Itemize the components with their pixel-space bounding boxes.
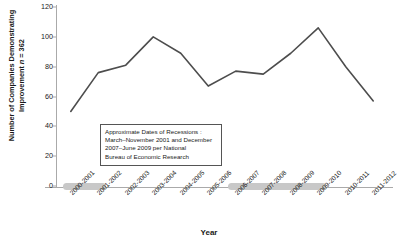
- y-axis-title-suffix: = 362: [17, 39, 26, 59]
- y-axis-tick-mark-100: [53, 36, 57, 37]
- annotation-line-1: Approximate Dates of Recessions :: [105, 128, 217, 136]
- annotation-line-2: March–November 2001 and December: [105, 136, 217, 144]
- y-axis-tick-label-40: 40: [45, 123, 53, 130]
- y-axis-title-prefix: Number of Companies Demonstrating Improv…: [7, 10, 26, 141]
- y-axis-tick-mark-40: [53, 126, 57, 127]
- y-axis-tick-mark-20: [53, 156, 57, 157]
- y-axis-title-wrapper: Number of Companies Demonstrating Improv…: [0, 0, 29, 195]
- annotation-line-4: Bureau of Economic Research: [105, 153, 217, 161]
- y-axis-tick-label-120: 120: [41, 3, 53, 10]
- x-axis-title: Year: [0, 228, 418, 237]
- y-axis-tick-mark-80: [53, 66, 57, 67]
- y-axis-title: Number of Companies Demonstrating Improv…: [7, 0, 26, 156]
- annotation-line-3: 2007–June 2009 per National: [105, 144, 217, 152]
- y-axis-tick-mark-60: [53, 96, 57, 97]
- y-axis-tick-label-80: 80: [45, 63, 53, 70]
- recession-annotation-box: Approximate Dates of Recessions : March–…: [100, 124, 222, 166]
- y-axis-title-italic-n: n: [17, 60, 26, 64]
- line-chart: Number of Companies Demonstrating Improv…: [0, 0, 418, 245]
- y-axis-tick-mark-120: [53, 7, 57, 8]
- y-axis-tick-label-20: 20: [45, 153, 53, 160]
- y-axis-tick-mark-0: [53, 186, 57, 187]
- y-axis-tick-label-100: 100: [41, 33, 53, 40]
- series-line-improvement: [71, 28, 374, 112]
- y-axis-tick-label-60: 60: [45, 93, 53, 100]
